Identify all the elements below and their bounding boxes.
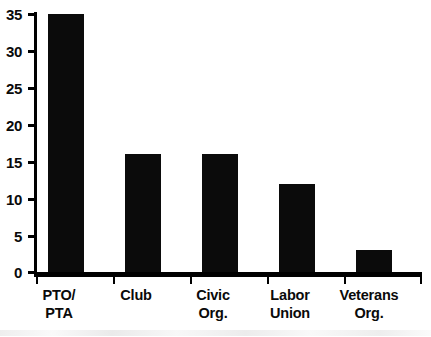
bar-club [125, 154, 161, 272]
category-label-club: Club [103, 287, 169, 305]
y-tick-label-10: 10 [0, 192, 22, 207]
category-label-pto-pta: PTO/ PTA [26, 287, 92, 322]
category-label-labor-union: Labor Union [257, 287, 323, 322]
category-label-line2: Org. [180, 305, 246, 323]
x-tick-mark-5 [420, 277, 422, 284]
y-tick-label-5: 5 [0, 229, 22, 244]
category-label-veterans-org: Veterans Org. [330, 287, 408, 322]
y-tick-label-25: 25 [0, 81, 22, 96]
y-tick-label-20: 20 [0, 118, 22, 133]
bar-pto-pta [48, 14, 84, 272]
x-tick-mark-3 [267, 277, 269, 284]
bar-veterans-org [356, 250, 392, 272]
x-tick-mark-1 [113, 277, 115, 284]
category-label-line1: Club [120, 287, 151, 303]
bar-labor-union [279, 184, 315, 273]
category-label-line1: Labor [270, 287, 309, 303]
bar-civic-org [202, 154, 238, 272]
x-tick-mark-2 [190, 277, 192, 284]
x-tick-mark-4 [344, 277, 346, 284]
category-label-line1: PTO/ [43, 287, 76, 303]
bar-chart: 35 30 25 20 15 10 5 0 [0, 0, 431, 337]
category-label-line2: PTA [26, 305, 92, 323]
category-label-line2: Union [257, 305, 323, 323]
y-tick-label-30: 30 [0, 44, 22, 59]
x-tick-mark-0 [36, 277, 38, 284]
x-axis-line [34, 272, 422, 277]
category-label-line1: Civic [196, 287, 230, 303]
y-tick-label-35: 35 [0, 7, 22, 22]
category-label-civic-org: Civic Org. [180, 287, 246, 322]
category-label-line1: Veterans [340, 287, 399, 303]
plot-area [37, 14, 422, 272]
y-tick-label-15: 15 [0, 155, 22, 170]
y-tick-label-0: 0 [0, 265, 22, 280]
scan-artifact [0, 330, 431, 336]
category-label-line2: Org. [330, 305, 408, 323]
